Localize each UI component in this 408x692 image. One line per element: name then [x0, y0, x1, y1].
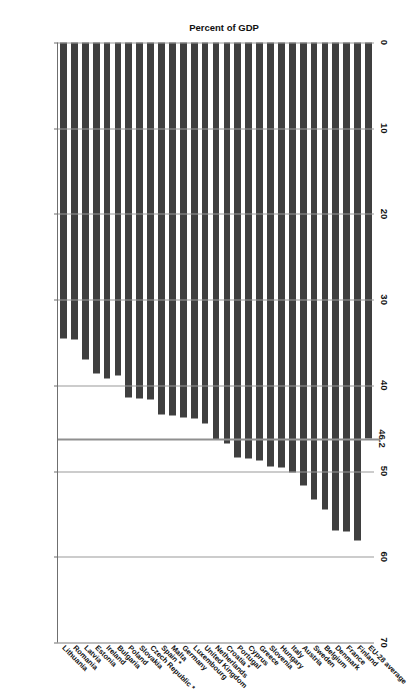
value-tick-label: 40	[379, 380, 390, 391]
axis-title: Percent of GDP	[189, 22, 259, 33]
tick-mark-70	[54, 642, 58, 643]
tick-mark-20	[54, 213, 58, 214]
value-tick-label: 10	[379, 122, 390, 133]
value-tick-label: 70	[379, 637, 390, 648]
category-labels: EU-28 averageFinlandFranceDenmarkBelgium…	[58, 42, 374, 642]
tick-mark-10	[54, 128, 58, 129]
tick-mark-0	[54, 42, 58, 43]
reference-line-label: 46.2	[377, 429, 388, 448]
value-axis-ticks: 010203040506070	[374, 42, 390, 642]
tick-mark-50	[54, 471, 58, 472]
value-tick-label: 60	[379, 551, 390, 562]
tick-mark-60	[54, 556, 58, 557]
tick-mark-30	[54, 299, 58, 300]
axis-title-container: Percent of GDP	[58, 14, 390, 40]
value-tick-label: 50	[379, 465, 390, 476]
tick-mark-40	[54, 385, 58, 386]
value-tick-label: 20	[379, 208, 390, 219]
value-tick-label: 30	[379, 294, 390, 305]
